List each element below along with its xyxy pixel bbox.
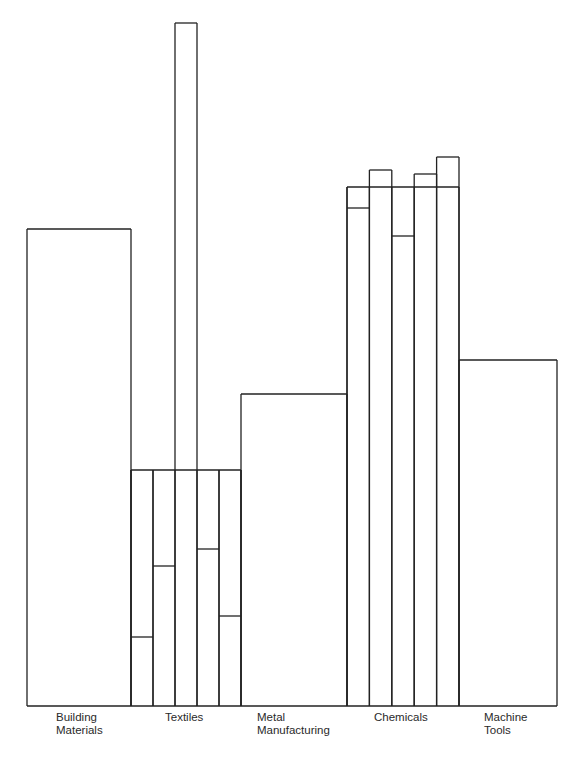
label-building-materials: Building Materials — [56, 711, 103, 737]
bars-group — [27, 23, 557, 706]
label-chemicals: Chemicals — [374, 711, 428, 724]
label-machine-tools: Machine Tools — [484, 711, 527, 737]
bar-chart — [0, 0, 580, 757]
label-textiles: Textiles — [165, 711, 203, 724]
label-metal-manufacturing: Metal Manufacturing — [257, 711, 330, 737]
